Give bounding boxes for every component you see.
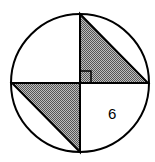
shaded-triangle-upper-right	[80, 14, 148, 83]
shaded-triangle-lower-left	[12, 83, 80, 152]
length-label: 6	[108, 105, 116, 122]
geometry-diagram: 6	[0, 0, 155, 162]
